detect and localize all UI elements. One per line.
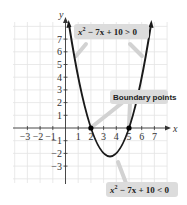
callout-positive-region: x2 − 7x + 10 > 0 xyxy=(74,24,149,39)
svg-text:−3: −3 xyxy=(51,161,62,172)
svg-text:3: 3 xyxy=(101,131,106,142)
svg-text:5: 5 xyxy=(57,59,62,70)
svg-text:7: 7 xyxy=(152,131,157,142)
callout-negative-region: x2 − 7x + 10 < 0 xyxy=(106,182,178,197)
svg-text:x2 − 7x + 10 < 0: x2 − 7x + 10 < 0 xyxy=(109,184,169,195)
svg-text:−2: −2 xyxy=(51,148,62,159)
curve-arrow-right-icon xyxy=(149,20,154,28)
parabola-chart: x y −3 −2 −1 1 2 3 4 5 6 xyxy=(0,0,187,205)
svg-text:x2 − 7x + 10 > 0: x2 − 7x + 10 > 0 xyxy=(77,26,137,37)
x-axis-label: x xyxy=(172,123,178,134)
boundary-point-x5 xyxy=(126,125,131,130)
svg-text:6: 6 xyxy=(57,46,62,57)
svg-text:Boundary points: Boundary points xyxy=(113,93,177,102)
svg-text:2: 2 xyxy=(57,97,62,108)
svg-text:4: 4 xyxy=(57,72,62,83)
callout-boundary-points: Boundary points xyxy=(110,90,177,104)
svg-text:7: 7 xyxy=(57,34,62,45)
boundary-point-x2 xyxy=(88,125,93,130)
svg-text:−2: −2 xyxy=(33,131,44,142)
svg-text:1: 1 xyxy=(57,110,62,121)
y-axis-arrow-icon xyxy=(63,17,68,23)
y-axis-label: y xyxy=(58,9,64,20)
svg-text:−3: −3 xyxy=(20,131,31,142)
svg-text:3: 3 xyxy=(57,84,62,95)
x-axis-arrow-icon xyxy=(165,126,171,131)
svg-text:4: 4 xyxy=(114,131,119,142)
svg-text:1: 1 xyxy=(76,131,81,142)
svg-text:6: 6 xyxy=(139,131,144,142)
svg-text:−1: −1 xyxy=(51,135,62,146)
